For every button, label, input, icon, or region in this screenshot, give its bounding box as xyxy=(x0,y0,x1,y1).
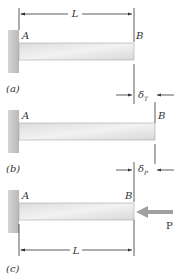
panel-c: A B P L (c) xyxy=(6,190,173,274)
dimension-label-L: L xyxy=(72,245,80,256)
end-label-B: B xyxy=(124,190,132,201)
fixed-wall xyxy=(8,190,19,233)
delta-P-label: δP xyxy=(138,163,149,176)
end-label-A: A xyxy=(21,30,29,41)
panel-caption-b: (b) xyxy=(6,163,20,174)
beam xyxy=(19,43,134,60)
beam-elongated xyxy=(19,123,155,140)
panel-b: δT A B (b) δP xyxy=(6,89,174,202)
beam xyxy=(19,203,134,220)
end-label-A: A xyxy=(21,190,29,201)
load-label-P: P xyxy=(166,220,173,231)
end-label-B: B xyxy=(135,30,143,41)
beam-diagram: L A B (a) δT A B (b) δP A B P xyxy=(0,0,179,277)
dimension-label-L: L xyxy=(71,8,79,19)
delta-T-label: δT xyxy=(138,89,149,102)
panel-caption-a: (a) xyxy=(6,83,20,94)
load-arrow-P xyxy=(136,206,173,218)
end-label-B: B xyxy=(157,110,165,121)
end-label-A: A xyxy=(21,110,29,121)
arrowhead-left xyxy=(20,13,25,16)
fixed-wall xyxy=(8,30,19,73)
panel-caption-c: (c) xyxy=(6,263,20,274)
fixed-wall xyxy=(8,110,19,153)
panel-a: L A B (a) xyxy=(6,8,143,104)
